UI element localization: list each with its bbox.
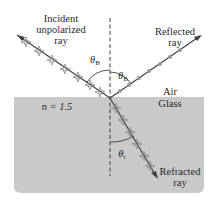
brewster-angle-diagram: Incident unpolarized ray Reflected ray R… — [0, 0, 220, 210]
theta-b-reflected-label: θB — [114, 70, 132, 85]
incident-label: Incident unpolarized ray — [28, 13, 94, 46]
glass-label: Glass — [155, 98, 185, 109]
reflected-label: Reflected ray — [146, 26, 204, 48]
refracted-label: Refracted ray — [152, 166, 208, 188]
air-label: Air — [158, 86, 182, 97]
refractive-index-label: n = 1.5 — [36, 101, 78, 112]
theta-r-label: θr — [114, 148, 130, 163]
theta-b-incident-label: θB — [86, 54, 104, 69]
